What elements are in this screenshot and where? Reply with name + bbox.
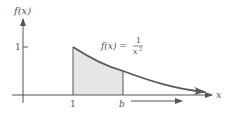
y-tick-label: 1 (15, 42, 21, 52)
formula-lhs: f(x) = (100, 41, 127, 51)
x-tick-label-1: 1 (70, 99, 76, 109)
shaded-area (73, 47, 123, 95)
improper-integral-diagram: f(x) x 1 1 b f(x) = 1 x 2 (0, 0, 227, 115)
y-axis-label: f(x) (13, 5, 31, 16)
x-tick-label-b: b (119, 99, 125, 109)
formula-denominator: x (133, 47, 138, 56)
formula-numerator: 1 (136, 36, 141, 45)
formula-exponent: 2 (139, 46, 142, 52)
x-axis-label: x (216, 89, 222, 100)
